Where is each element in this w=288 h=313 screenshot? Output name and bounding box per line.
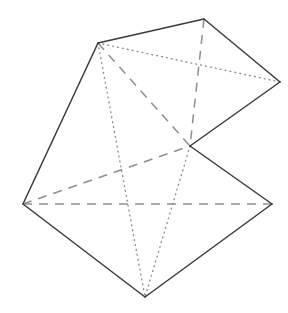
polyhedron-wireframe-svg (0, 0, 288, 313)
solid-edge-group (23, 19, 280, 297)
solid-edge-D-F (190, 146, 272, 204)
solid-edge-G-E (23, 204, 145, 297)
dotted-edge-group (98, 43, 280, 297)
dashed-edge-E-D (23, 146, 190, 204)
solid-edge-B-C (204, 19, 280, 82)
solid-edge-C-D (190, 82, 280, 146)
solid-edge-F-G (145, 204, 272, 297)
dashed-edge-group (23, 19, 272, 204)
solid-edge-E-A (23, 43, 98, 204)
dotted-edge-A-C (98, 43, 280, 82)
dotted-edge-D-G (145, 146, 190, 297)
dashed-edge-A-D (98, 43, 190, 146)
figure-canvas (0, 0, 288, 313)
dashed-edge-B-D (190, 19, 204, 146)
solid-edge-A-B (98, 19, 204, 43)
